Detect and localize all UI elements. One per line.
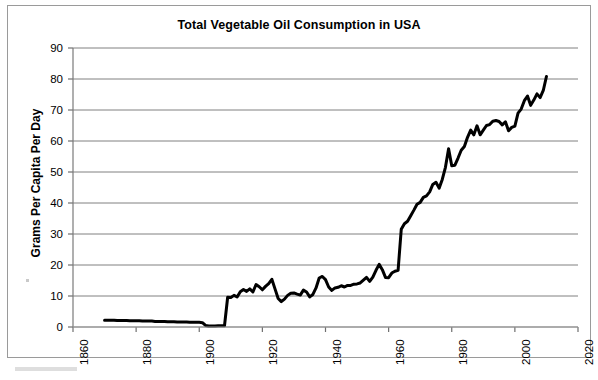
x-tick-label: 2000 bbox=[520, 339, 532, 365]
x-tick-label: 1960 bbox=[394, 339, 406, 365]
scan-speck-mark bbox=[26, 279, 29, 282]
x-tick-marks-group bbox=[73, 327, 578, 332]
y-tick-label: 60 bbox=[35, 135, 63, 147]
x-tick-label: 1880 bbox=[141, 339, 153, 365]
y-tick-label: 20 bbox=[35, 259, 63, 271]
x-tick-label: 1900 bbox=[204, 339, 216, 365]
scan-artifact-mark bbox=[15, 367, 77, 371]
y-tick-marks-group bbox=[68, 48, 73, 327]
chart-figure: Total Vegetable Oil Consumption in USA G… bbox=[0, 0, 598, 380]
x-tick-label: 1940 bbox=[331, 339, 343, 365]
y-tick-label: 50 bbox=[35, 166, 63, 178]
y-tick-label: 40 bbox=[35, 197, 63, 209]
y-tick-label: 30 bbox=[35, 228, 63, 240]
y-tick-label: 70 bbox=[35, 104, 63, 116]
x-tick-label: 1920 bbox=[267, 339, 279, 365]
x-tick-label: 1860 bbox=[78, 339, 90, 365]
y-tick-label: 80 bbox=[35, 73, 63, 85]
data-series-line bbox=[105, 77, 547, 327]
y-tick-label: 0 bbox=[35, 321, 63, 333]
gridlines-group bbox=[73, 48, 578, 327]
y-tick-label: 90 bbox=[35, 42, 63, 54]
plot-area bbox=[0, 0, 598, 380]
x-tick-label: 2020 bbox=[583, 339, 595, 365]
y-tick-label: 10 bbox=[35, 290, 63, 302]
x-tick-label: 1980 bbox=[457, 339, 469, 365]
